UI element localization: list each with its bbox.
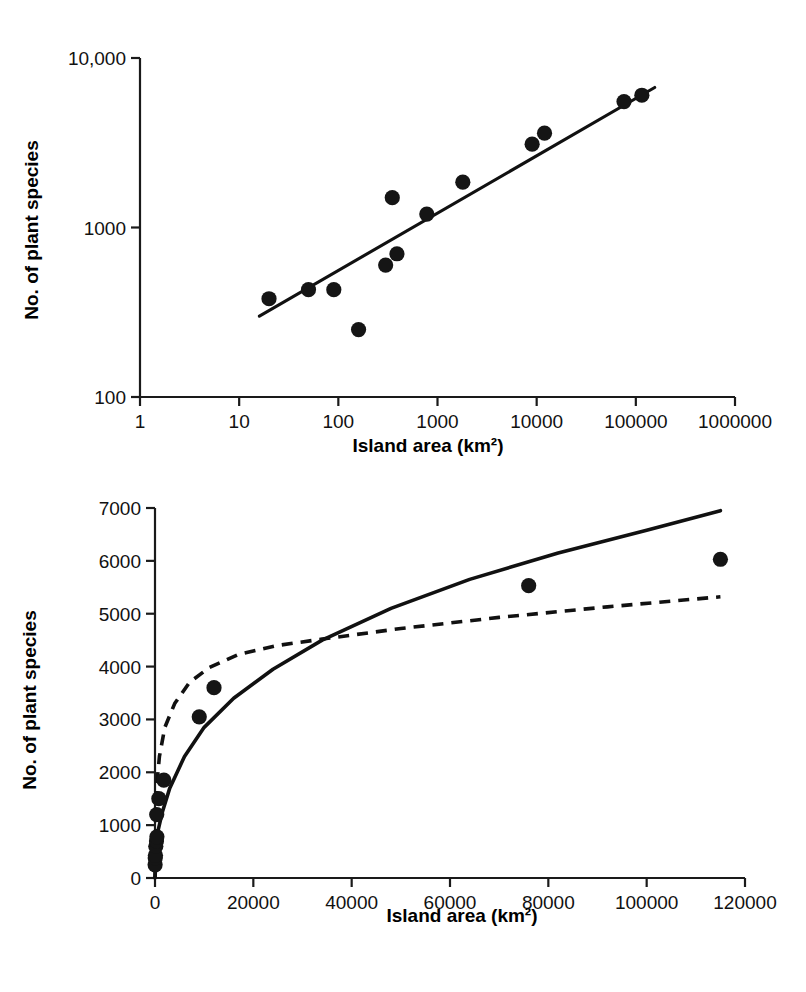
- top-data-point: [378, 258, 393, 273]
- top-x-tick-label: 1: [135, 411, 146, 432]
- top-axis-lines: [140, 58, 735, 397]
- top-y-tick-label: 10,000: [68, 48, 126, 69]
- bottom-data-point: [521, 578, 536, 593]
- bottom-curve-power-function-fit: [155, 511, 720, 878]
- top-x-axis-title: Island area (km²): [353, 435, 504, 456]
- top-tick-marks: [131, 58, 735, 406]
- bottom-chart-svg: 0100020003000400050006000700002000040000…: [0, 470, 806, 992]
- top-data-point: [537, 126, 552, 141]
- bottom-data-point: [149, 829, 164, 844]
- bottom-data-point: [156, 773, 171, 788]
- bottom-x-tick-label: 100000: [615, 892, 678, 913]
- top-data-point: [351, 322, 366, 337]
- bottom-data-point: [206, 680, 221, 695]
- bottom-data-point: [151, 791, 166, 806]
- top-data-point: [616, 94, 631, 109]
- top-data-point: [419, 206, 434, 221]
- top-data-point: [455, 175, 470, 190]
- bottom-y-tick-label: 4000: [99, 657, 141, 678]
- bottom-y-tick-label: 3000: [99, 709, 141, 730]
- top-data-point: [634, 88, 649, 103]
- top-y-tick-label: 100: [94, 387, 126, 408]
- top-y-axis-title: No. of plant species: [21, 140, 42, 319]
- top-x-tick-label: 1000000: [698, 411, 772, 432]
- bottom-y-tick-label: 1000: [99, 815, 141, 836]
- top-regression-line: [259, 87, 654, 316]
- bottom-y-tick-label: 5000: [99, 604, 141, 625]
- chart-panel-bottom: 0100020003000400050006000700002000040000…: [0, 470, 806, 992]
- chart-panel-top: 100100010,000110100100010000100000100000…: [0, 0, 806, 470]
- top-data-point: [326, 282, 341, 297]
- bottom-fitted-curves: [155, 511, 720, 878]
- bottom-x-tick-label: 120000: [713, 892, 776, 913]
- bottom-data-points: [147, 552, 728, 873]
- bottom-curve-asymptotic-fit: [155, 597, 720, 878]
- bottom-y-axis-title: No. of plant species: [19, 610, 40, 789]
- bottom-data-point: [713, 552, 728, 567]
- top-y-tick-label: 1000: [84, 218, 126, 239]
- bottom-data-point: [149, 807, 164, 822]
- top-axes: [140, 58, 735, 397]
- top-data-point: [525, 137, 540, 152]
- top-chart-svg: 100100010,000110100100010000100000100000…: [0, 0, 806, 470]
- top-x-tick-label: 10000: [510, 411, 563, 432]
- top-x-tick-label: 1000: [416, 411, 458, 432]
- bottom-data-point: [192, 709, 207, 724]
- bottom-y-tick-label: 6000: [99, 551, 141, 572]
- bottom-x-tick-label: 0: [150, 892, 161, 913]
- top-data-point: [385, 190, 400, 205]
- top-data-point: [389, 246, 404, 261]
- bottom-y-tick-label: 2000: [99, 762, 141, 783]
- top-fit-line: [259, 87, 654, 316]
- top-tick-labels: 100100010,000110100100010000100000100000…: [68, 48, 772, 432]
- top-data-point: [301, 282, 316, 297]
- bottom-y-tick-label: 7000: [99, 498, 141, 519]
- bottom-tick-labels: 0100020003000400050006000700002000040000…: [99, 498, 777, 913]
- bottom-x-tick-label: 40000: [325, 892, 378, 913]
- bottom-x-axis-title: Island area (km²): [387, 905, 538, 926]
- bottom-x-tick-label: 20000: [227, 892, 280, 913]
- top-x-tick-label: 10: [229, 411, 250, 432]
- figure-container: 100100010,000110100100010000100000100000…: [0, 0, 806, 992]
- top-x-tick-label: 100: [322, 411, 354, 432]
- top-x-tick-label: 100000: [604, 411, 667, 432]
- top-data-point: [261, 291, 276, 306]
- bottom-y-tick-label: 0: [130, 868, 141, 889]
